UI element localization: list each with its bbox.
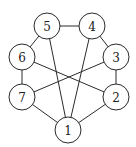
node-3: 3 [103, 44, 129, 70]
node-label: 1 [64, 124, 72, 138]
node-label: 7 [18, 91, 26, 105]
node-2: 2 [103, 84, 129, 110]
node-1: 1 [55, 117, 81, 143]
edge-5-1 [47, 26, 68, 130]
graph-diagram: 1234567 [0, 0, 136, 147]
node-label: 4 [88, 20, 96, 34]
node-5: 5 [34, 13, 60, 39]
edges-layer [22, 26, 116, 130]
node-6: 6 [9, 44, 35, 70]
node-7: 7 [9, 84, 35, 110]
node-label: 5 [43, 20, 51, 34]
node-label: 6 [18, 51, 26, 65]
node-label: 2 [112, 91, 120, 105]
node-label: 3 [112, 51, 120, 65]
node-4: 4 [79, 13, 105, 39]
nodes-layer: 1234567 [9, 13, 129, 143]
